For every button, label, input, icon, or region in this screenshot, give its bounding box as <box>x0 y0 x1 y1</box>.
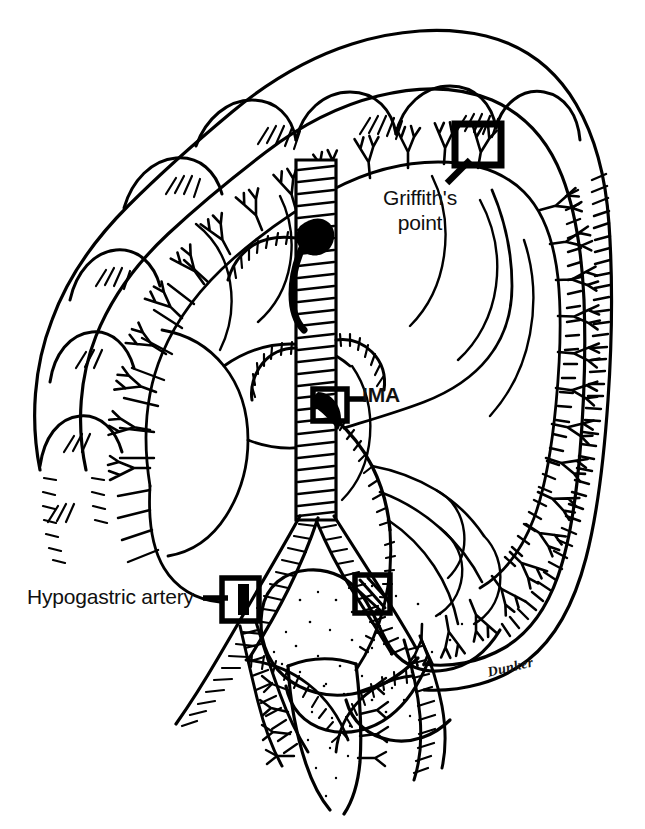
rectum <box>288 659 361 814</box>
aorta <box>296 160 336 520</box>
griffiths-point-label-line1: Griffith's <box>383 186 457 209</box>
ima-label: IMA <box>362 382 400 407</box>
sigmoid-colon <box>261 570 500 741</box>
inferior-mesenteric-artery <box>313 190 512 624</box>
griffiths-point-label-line2: point <box>398 211 443 234</box>
griffiths-point-label: Griffith'spoint <box>361 185 479 235</box>
colon-arterial-diagram <box>0 0 645 829</box>
ascending-colon-shading <box>43 478 107 563</box>
hypogastric-artery-label: Hypogastric artery <box>27 584 194 609</box>
figure-root: Griffith'spoint IMA Hypogastric artery D… <box>0 0 645 829</box>
